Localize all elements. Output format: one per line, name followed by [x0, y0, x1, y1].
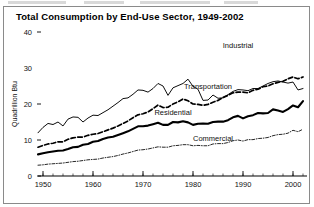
y-axis-tick-label: 0 — [28, 172, 32, 181]
series-label-commercial: Commercial — [193, 134, 233, 143]
x-axis-tick-label: 1960 — [85, 180, 102, 189]
x-axis-tick-label: 1970 — [135, 180, 152, 189]
y-axis-tick-label: 30 — [24, 64, 32, 73]
y-axis-tick-label: 40 — [24, 28, 32, 37]
x-axis-tick-label: 1980 — [185, 180, 202, 189]
y-axis-title: Quadrillion Btu — [11, 81, 19, 127]
chart-figure: Total Consumption by End-Use Sector, 194… — [0, 0, 314, 207]
chart-plot-area: 195019601970198019902000010203040Quadril… — [0, 0, 314, 207]
y-axis-tick-label: 20 — [24, 100, 32, 109]
series-label-transportation: Transportation — [184, 82, 232, 91]
y-axis-tick-label: 10 — [24, 136, 32, 145]
x-axis-tick-label: 2000 — [285, 180, 302, 189]
series-label-industrial: Industrial — [223, 41, 254, 50]
series-label-residential: Residential — [154, 108, 191, 117]
x-axis-tick-label: 1950 — [35, 180, 52, 189]
x-axis-tick-label: 1990 — [235, 180, 252, 189]
